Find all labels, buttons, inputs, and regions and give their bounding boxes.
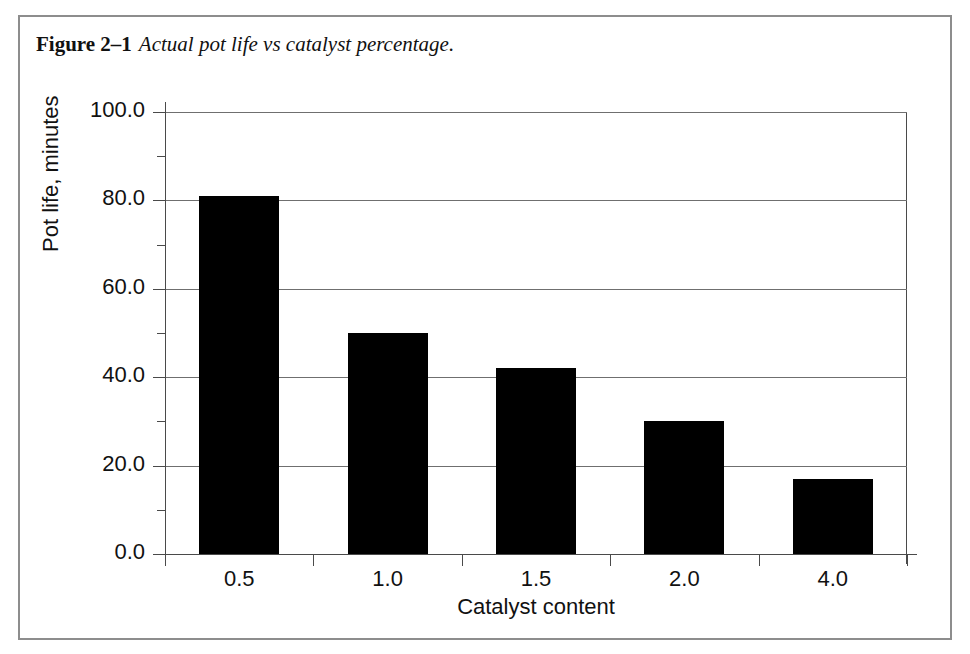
y-tick-minor [157,245,166,246]
y-tick-major [153,289,166,290]
y-tick-label: 20.0 [35,451,145,477]
x-tick-label: 1.0 [313,566,461,592]
y-tick-label: 80.0 [35,185,145,211]
y-tick-major [153,377,166,378]
plot-area: 0.020.040.060.080.0100.0 0.51.01.52.04.0 [165,112,907,554]
gridline [165,112,907,113]
plot-right-edge [906,112,907,564]
x-tick [759,554,760,566]
y-tick-minor [157,333,166,334]
x-tick-label: 0.5 [165,566,313,592]
bar [644,421,724,554]
x-axis-line [155,554,917,555]
y-tick-minor [157,421,166,422]
x-tick [610,554,611,566]
bar [496,368,576,554]
y-tick-major [153,112,166,113]
x-axis-title: Catalyst content [165,594,907,620]
x-tick-label: 4.0 [759,566,907,592]
y-tick-major [153,466,166,467]
bar-chart: Pot life, minutes Catalyst content 0.020… [20,17,954,642]
y-tick-major [153,200,166,201]
bar [199,196,279,554]
y-tick-minor [157,510,166,511]
y-tick-minor [157,156,166,157]
x-tick [165,554,166,566]
bar [348,333,428,554]
y-tick-label: 60.0 [35,274,145,300]
y-tick-label: 100.0 [35,97,145,123]
bar [793,479,873,554]
y-tick-label: 40.0 [35,362,145,388]
x-tick [313,554,314,566]
figure-frame: Figure 2–1Actual pot life vs catalyst pe… [18,15,952,640]
x-tick-label: 2.0 [610,566,758,592]
x-tick [462,554,463,566]
y-tick-label: 0.0 [35,539,145,565]
x-tick [907,554,908,566]
x-tick-label: 1.5 [462,566,610,592]
